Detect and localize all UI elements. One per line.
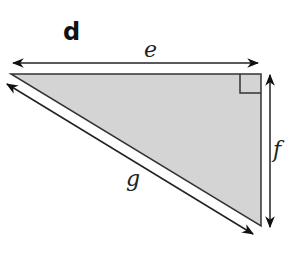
triangle-diagram: d e f g [0,0,301,265]
side-g-label: g [126,166,140,191]
side-e-label: e [144,37,157,62]
diagram-canvas: d e f g [0,0,301,265]
panel-label: d [63,18,80,46]
right-triangle [11,74,261,226]
side-f-label: f [271,137,285,162]
